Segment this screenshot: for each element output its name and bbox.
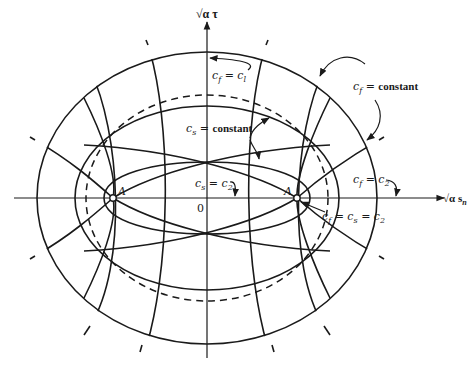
point-a-left-label: A bbox=[118, 186, 126, 197]
arrow-cf-constant-upper bbox=[320, 57, 365, 76]
point-a-left bbox=[110, 195, 116, 201]
point-a-right-label: A bbox=[284, 186, 292, 197]
arrow-cs-constant-lower bbox=[250, 140, 259, 159]
label-cs-c2: cs = c2 bbox=[195, 178, 233, 192]
label-cs-constant: cs = constant bbox=[186, 123, 252, 137]
label-cf-cs-c2: cf = cs = c2 bbox=[322, 211, 385, 225]
label-cf-constant: cf = constant bbox=[353, 81, 418, 95]
arrow-cf-constant-lower bbox=[367, 100, 380, 140]
a-left-upper-branch bbox=[84, 98, 114, 198]
vertical-curve-left-1 bbox=[142, 45, 165, 360]
horizontal-axis-label: √α sn bbox=[443, 193, 467, 207]
point-a-right bbox=[294, 195, 300, 201]
vertical-curve-right-1 bbox=[249, 45, 272, 360]
wave-speed-diagram bbox=[0, 0, 469, 371]
label-cf-c2: cf = c2 bbox=[353, 174, 390, 188]
a-left-lower-branch bbox=[84, 198, 114, 298]
label-cf-c1: cf = cl bbox=[212, 70, 246, 84]
vertical-axis-label: √α τ bbox=[196, 8, 218, 20]
arrow-cs-constant-upper bbox=[250, 118, 269, 138]
a-left-cross-lower bbox=[35, 198, 330, 256]
origin-label: 0 bbox=[197, 203, 204, 214]
